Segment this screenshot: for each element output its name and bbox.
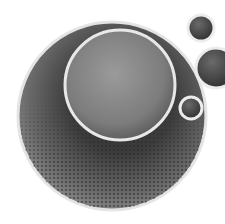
small-circle-right	[196, 48, 225, 88]
small-circle-bottom	[180, 97, 202, 119]
circles-illustration	[0, 0, 225, 224]
inner-circle	[65, 30, 175, 140]
small-circle-top	[188, 15, 214, 41]
